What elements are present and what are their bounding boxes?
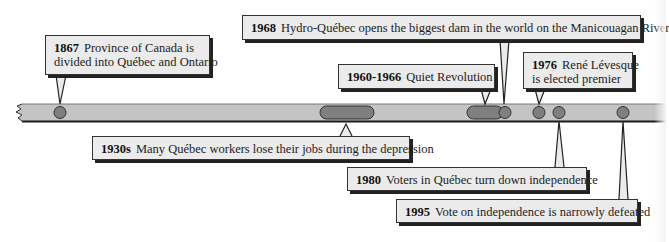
event-text-line2: is elected premier: [532, 72, 624, 86]
event-text: Province of Canada is: [84, 41, 194, 55]
event-text: Many Québec workers lose their jobs duri…: [136, 142, 434, 156]
event-year: 1995: [405, 205, 430, 219]
event-text-line2: divided into Québec and Ontario: [54, 55, 201, 69]
callout-1980: 1980Voters in Québec turn down independe…: [347, 167, 587, 191]
callout-1867: 1867Province of Canada is divided into Q…: [45, 35, 210, 75]
event-year: 1968: [251, 21, 276, 35]
point-marker-1980: [553, 107, 565, 119]
event-year: 1930s: [101, 142, 131, 156]
callout-1968: 1968Hydro-Québec opens the biggest dam i…: [242, 15, 641, 40]
point-marker-1976: [533, 107, 545, 119]
event-text: Quiet Revolution: [406, 70, 492, 84]
event-text: Voters in Québec turn down independence: [386, 173, 598, 187]
event-year: 1867: [54, 41, 79, 55]
callout-1930s: 1930sMany Québec workers lose their jobs…: [92, 136, 410, 160]
callout-1960-1966: 1960-1966Quiet Revolution: [338, 64, 495, 89]
event-text: Vote on independence is narrowly defeate…: [435, 205, 650, 219]
callout-1976: 1976René Lévesque is elected premier: [523, 52, 633, 89]
page-edge-shadow: [654, 0, 666, 242]
callout-1995: 1995Vote on independence is narrowly def…: [396, 199, 638, 223]
period-marker-1930s: [320, 106, 374, 119]
point-marker-1995: [617, 107, 629, 119]
period-marker-1960-1966: [467, 106, 503, 119]
event-text: René Lévesque: [562, 58, 639, 72]
event-text: Hydro-Québec opens the biggest dam in th…: [281, 21, 669, 35]
event-year: 1960-1966: [347, 70, 401, 84]
event-year: 1980: [356, 173, 381, 187]
point-marker-1867: [54, 107, 66, 119]
point-marker-1968: [499, 107, 511, 119]
event-year: 1976: [532, 58, 557, 72]
